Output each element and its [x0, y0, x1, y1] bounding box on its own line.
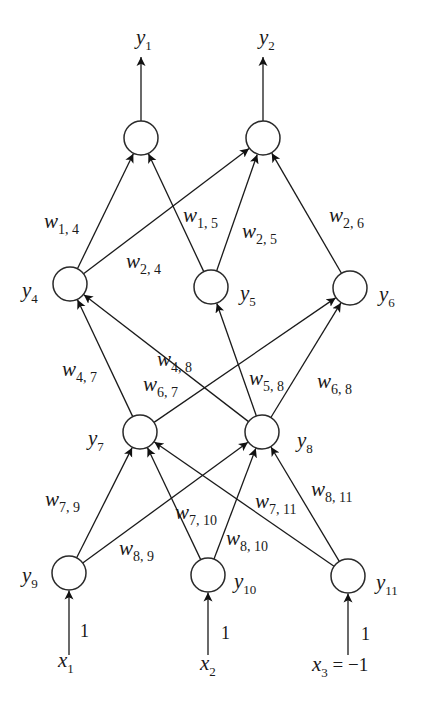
weight-label: w2, 4 [126, 249, 161, 277]
node-label-y9: y9 [20, 563, 38, 591]
edge-w2-5 [217, 155, 258, 271]
edge-w6-8 [271, 303, 341, 418]
weight-label: w5, 8 [249, 366, 284, 394]
output-label: y2 [257, 25, 275, 53]
node-label-y5: y5 [238, 281, 256, 309]
node-label-subscript: 10 [243, 582, 256, 597]
node-label-subscript: 4 [31, 291, 38, 306]
node-label-subscript: 7 [97, 439, 104, 454]
weight-label: w8, 10 [226, 526, 268, 554]
weight-label: w2, 5 [242, 219, 277, 247]
neuron-y11 [331, 559, 365, 593]
weight-label-subscript: 1, 4 [58, 222, 79, 237]
input-weight-label: 1 [221, 623, 230, 643]
node-label-y10: y10 [232, 569, 256, 597]
neuron-o2 [246, 121, 280, 155]
weight-label-subscript: 7, 10 [189, 513, 217, 528]
node-label-y6: y6 [377, 282, 395, 310]
edge-w8-9 [83, 442, 248, 563]
input-variable-label: x3 = −1 [311, 652, 368, 680]
weight-label-subscript: 7, 9 [59, 500, 80, 515]
weight-label: w1, 5 [183, 203, 218, 231]
weight-label: w4, 8 [157, 347, 192, 375]
input-value: = −1 [328, 654, 368, 675]
weight-label-subscript: 2, 4 [140, 262, 161, 277]
connection-edges [77, 149, 342, 567]
output-label-subscript: 2 [268, 38, 275, 53]
weight-label: w8, 11 [311, 477, 353, 505]
neuron-y5 [194, 270, 228, 304]
node-label-y11: y11 [374, 570, 398, 598]
weight-label: w6, 7 [143, 372, 178, 400]
weight-label: w2, 6 [329, 203, 364, 231]
weight-label-subscript: 4, 7 [76, 370, 97, 385]
weight-label-subscript: 2, 6 [343, 216, 364, 231]
node-label-subscript: 9 [31, 576, 38, 591]
neuron-y7 [123, 415, 157, 449]
weight-label-subscript: 1, 5 [197, 216, 218, 231]
neural-network-diagram: y1y21x11x21x3 = −1y4y5y6y7y8y9y10y11w1, … [0, 0, 423, 718]
edge-w2-4 [84, 149, 249, 274]
weight-label-subscript: 8, 9 [133, 549, 154, 564]
weight-label-subscript: 8, 10 [240, 539, 268, 554]
weight-label-subscript: 5, 8 [263, 379, 284, 394]
weight-label-subscript: 6, 7 [157, 385, 178, 400]
neuron-y6 [333, 271, 367, 305]
weight-label: w7, 10 [175, 500, 217, 528]
weight-label: w1, 4 [44, 209, 79, 237]
node-label-y4: y4 [20, 278, 38, 306]
input-subscript: 2 [209, 664, 216, 679]
edge-w5-8 [217, 304, 257, 416]
output-label-subscript: 1 [145, 38, 152, 53]
weight-label: w8, 9 [119, 536, 154, 564]
node-label-y8: y8 [295, 428, 313, 456]
node-label-subscript: 6 [388, 295, 395, 310]
neuron-y8 [245, 415, 279, 449]
input-weight-label: 1 [361, 624, 370, 644]
node-label-subscript: 8 [306, 441, 313, 456]
neuron-y10 [191, 558, 225, 592]
weight-label: w7, 9 [45, 487, 80, 515]
input-subscript: 1 [67, 661, 74, 676]
neuron-y4 [53, 267, 87, 301]
node-label-subscript: 11 [385, 583, 398, 598]
weight-label-subscript: 2, 5 [256, 232, 277, 247]
weight-label: w7, 11 [255, 489, 297, 517]
weight-label: w6, 8 [317, 369, 352, 397]
node-label-y7: y7 [86, 426, 104, 454]
weight-label-subscript: 7, 11 [269, 502, 296, 517]
edge-w4-7 [77, 300, 132, 417]
weight-label: w4, 7 [62, 357, 97, 385]
edge-w1-4 [77, 154, 133, 269]
weight-label-subscript: 6, 8 [331, 382, 352, 397]
input-variable-label: x1 [57, 648, 74, 676]
output-label: y1 [134, 25, 152, 53]
node-label-subscript: 5 [249, 294, 256, 309]
neuron-y9 [52, 556, 86, 590]
input-variable-label: x2 [199, 651, 216, 679]
input-weight-label: 1 [80, 621, 89, 641]
neuron-o1 [124, 121, 158, 155]
weight-label-subscript: 8, 11 [325, 490, 352, 505]
weight-label-subscript: 4, 8 [171, 360, 192, 375]
